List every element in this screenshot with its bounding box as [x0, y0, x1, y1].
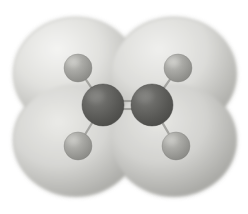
molecular-model-scene: [0, 0, 248, 214]
carbon-right: [131, 84, 173, 126]
hydrogen-bottom-right: [162, 132, 190, 160]
carbon-left: [82, 84, 124, 126]
hydrogen-bottom-left: [64, 132, 92, 160]
figure-canvas: Grayscale ball-and-stick model of ethyle…: [0, 0, 248, 214]
hydrogen-top-right: [164, 54, 192, 82]
electron-density-isosurface: [6, 0, 248, 214]
hydrogen-top-left: [64, 54, 92, 82]
isosurface-body: [14, 18, 236, 196]
